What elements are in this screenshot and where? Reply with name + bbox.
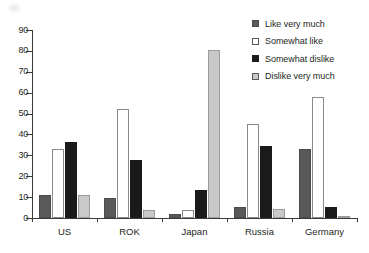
- bar: [117, 109, 130, 218]
- bar: [312, 97, 325, 218]
- bar: [234, 207, 247, 218]
- bar: [325, 207, 338, 218]
- y-tick-label: 30: [18, 151, 28, 160]
- legend-swatch-like-very-much: [252, 20, 259, 27]
- bar: [52, 149, 65, 218]
- legend-item[interactable]: Dislike very much: [252, 69, 369, 84]
- bar: [143, 210, 156, 218]
- x-axis-label-germany: Germany: [285, 226, 365, 237]
- chart-legend: Like very muchSomewhat likeSomewhat disl…: [252, 16, 369, 86]
- bar: [169, 214, 182, 218]
- legend-item[interactable]: Somewhat dislike: [252, 51, 369, 66]
- bar: [299, 149, 312, 218]
- y-tick-label: 20: [18, 172, 28, 181]
- bar: [130, 160, 143, 218]
- y-tick-label: 0: [23, 214, 28, 223]
- y-tick-label: 80: [18, 46, 28, 55]
- legend-item-label: Somewhat dislike: [265, 54, 334, 64]
- legend-item[interactable]: Like very much: [252, 16, 369, 31]
- x-tick-mark: [227, 218, 228, 222]
- bar: [104, 198, 117, 218]
- bar-chart: 0102030405060708090 USROKJapanRussiaGerm…: [0, 0, 369, 253]
- legend-item-label: Dislike very much: [265, 71, 335, 81]
- legend-item-label: Like very much: [265, 19, 325, 29]
- bar: [260, 146, 273, 218]
- corner-smudge-artifact: [6, 2, 22, 14]
- bar: [195, 190, 208, 218]
- bar: [182, 210, 195, 218]
- x-tick-mark: [32, 218, 33, 222]
- legend-swatch-somewhat-dislike: [252, 55, 259, 62]
- legend-item-label: Somewhat like: [265, 36, 323, 46]
- bar: [39, 195, 52, 218]
- y-tick-label: 90: [18, 26, 28, 35]
- bar: [247, 124, 260, 218]
- y-tick-label: 70: [18, 67, 28, 76]
- x-tick-mark: [97, 218, 98, 222]
- bar: [338, 216, 351, 218]
- bar: [65, 142, 78, 218]
- y-tick-label: 40: [18, 130, 28, 139]
- x-tick-mark-end: [357, 218, 358, 222]
- x-tick-mark: [162, 218, 163, 222]
- legend-swatch-dislike-very-much: [252, 73, 259, 80]
- x-tick-mark: [292, 218, 293, 222]
- legend-swatch-somewhat-like: [252, 38, 259, 45]
- y-tick-label: 60: [18, 88, 28, 97]
- x-axis-line: [32, 218, 357, 219]
- y-tick-label: 10: [18, 193, 28, 202]
- y-tick-label: 50: [18, 109, 28, 118]
- bar: [78, 195, 91, 218]
- bar: [208, 50, 221, 218]
- legend-item[interactable]: Somewhat like: [252, 34, 369, 49]
- bar: [273, 209, 286, 218]
